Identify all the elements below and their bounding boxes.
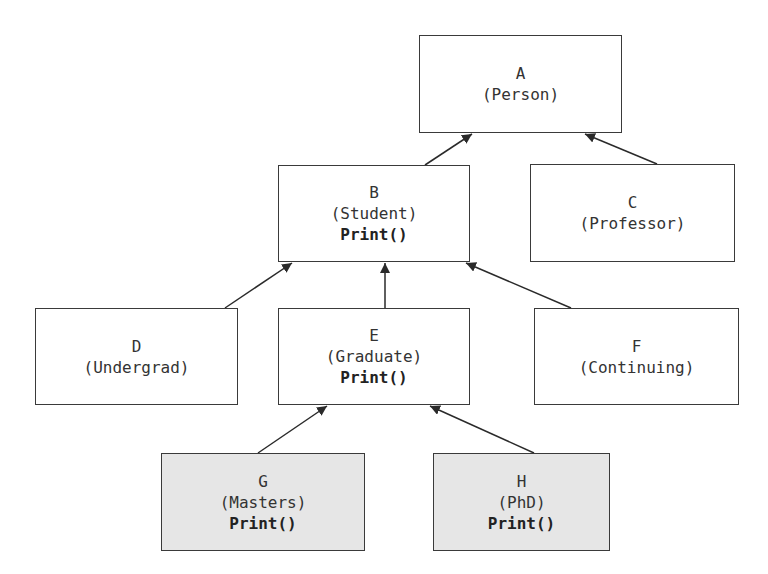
- arrow-f-to-b: [466, 263, 571, 308]
- arrow-d-to-b: [225, 263, 292, 308]
- inheritance-arrows: [0, 0, 768, 574]
- class-name: (PhD): [497, 492, 545, 513]
- class-name: (Masters): [220, 492, 307, 513]
- class-method: Print(): [340, 224, 407, 245]
- arrow-b-to-a: [425, 134, 472, 165]
- class-box-a: A(Person): [419, 35, 622, 133]
- class-name: (Person): [482, 84, 559, 105]
- class-method: Print(): [488, 513, 555, 534]
- class-box-f: F(Continuing): [534, 308, 739, 405]
- class-method: Print(): [229, 513, 296, 534]
- class-name: (Undergrad): [84, 357, 190, 378]
- class-letter: A: [516, 63, 526, 84]
- class-box-e: E(Graduate)Print(): [278, 308, 470, 405]
- class-letter: D: [132, 336, 142, 357]
- class-name: (Continuing): [579, 357, 695, 378]
- arrow-h-to-e: [430, 406, 534, 453]
- class-box-g: G(Masters)Print(): [161, 453, 365, 551]
- arrow-g-to-e: [258, 406, 327, 453]
- class-letter: H: [517, 471, 527, 492]
- class-box-d: D(Undergrad): [35, 308, 238, 405]
- class-name: (Professor): [580, 213, 686, 234]
- inheritance-diagram: A(Person)B(Student)Print()C(Professor)D(…: [0, 0, 768, 574]
- class-letter: B: [369, 182, 379, 203]
- class-box-b: B(Student)Print(): [278, 165, 470, 262]
- class-box-c: C(Professor): [530, 164, 735, 262]
- class-letter: G: [258, 471, 268, 492]
- class-letter: E: [369, 325, 379, 346]
- class-method: Print(): [340, 367, 407, 388]
- class-name: (Student): [331, 203, 418, 224]
- class-box-h: H(PhD)Print(): [433, 453, 610, 551]
- class-letter: C: [628, 192, 638, 213]
- class-letter: F: [632, 336, 642, 357]
- class-name: (Graduate): [326, 346, 422, 367]
- arrow-c-to-a: [585, 134, 657, 164]
